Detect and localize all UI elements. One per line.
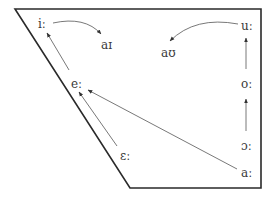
vowel-label-open-o: ɔː: [241, 139, 252, 153]
diphthong-label-au: aʊ: [161, 46, 176, 60]
arrow-i-to-ai: [53, 21, 101, 34]
vowel-label-o: oː: [241, 77, 252, 91]
arrow-u-to-au: [170, 22, 238, 41]
vowel-label-epsilon: ɛː: [120, 149, 130, 163]
vowel-trapezoid-frame: [15, 9, 261, 188]
vowel-label-e: eː: [71, 77, 82, 91]
vowel-label-a: aː: [241, 166, 252, 180]
vowel-label-u: uː: [241, 19, 253, 33]
vowel-diagram: iː aɪ aʊ uː eː oː ɛː ɔː aː: [0, 0, 273, 203]
vowel-label-i: iː: [38, 17, 46, 31]
diphthong-label-ai: aɪ: [101, 38, 112, 52]
